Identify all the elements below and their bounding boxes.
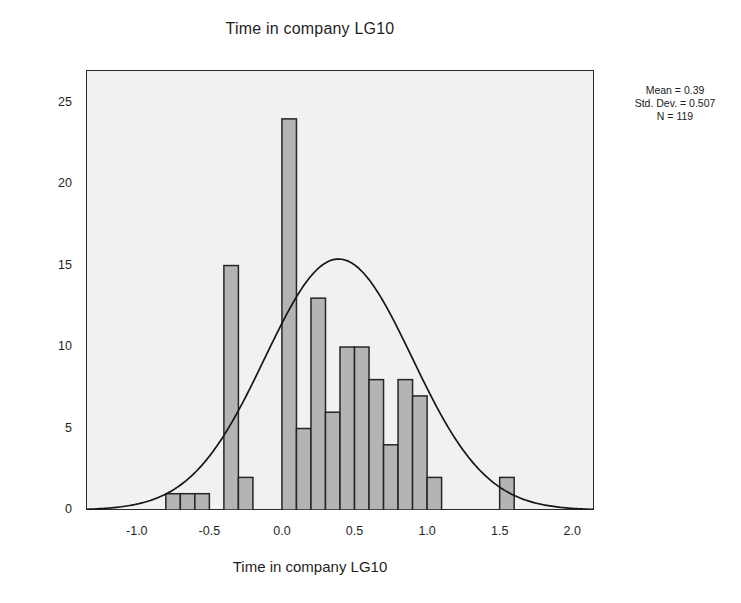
histogram-bar xyxy=(340,347,355,510)
histogram-chart: Time in company LG10 Mean = 0.39 Std. De… xyxy=(0,0,741,603)
x-tick-label: 1.5 xyxy=(477,524,523,538)
histogram-bar xyxy=(413,396,428,510)
histogram-bar xyxy=(384,445,399,510)
histogram-bar xyxy=(238,477,253,510)
y-tick-label: 5 xyxy=(38,421,72,435)
histogram-bar xyxy=(195,494,210,510)
stat-std-dev: Std. Dev. = 0.507 xyxy=(612,97,738,110)
histogram-bar xyxy=(224,266,239,510)
histogram-bar xyxy=(282,119,297,510)
bars-group xyxy=(166,119,514,510)
plot-area xyxy=(86,70,594,510)
y-tick-label: 25 xyxy=(38,95,72,109)
stat-n: N = 119 xyxy=(612,110,738,123)
histogram-bar xyxy=(180,494,195,510)
x-tick-label: 0.0 xyxy=(259,524,305,538)
stat-mean: Mean = 0.39 xyxy=(612,84,738,97)
histogram-bar xyxy=(398,380,413,510)
y-tick-label: 10 xyxy=(38,339,72,353)
histogram-bar xyxy=(166,494,181,510)
x-tick-label: -1.0 xyxy=(114,524,160,538)
histogram-bar xyxy=(355,347,370,510)
x-axis-title: Time in company LG10 xyxy=(0,558,620,575)
x-tick-label: -0.5 xyxy=(186,524,232,538)
histogram-bar xyxy=(325,412,340,510)
x-tick-label: 2.0 xyxy=(549,524,595,538)
x-tick-label: 0.5 xyxy=(332,524,378,538)
histogram-bar xyxy=(296,429,311,510)
histogram-bar xyxy=(311,298,326,510)
plot-canvas xyxy=(86,70,594,510)
y-tick-label: 0 xyxy=(38,502,72,516)
y-tick-label: 20 xyxy=(38,176,72,190)
histogram-bar xyxy=(427,477,442,510)
chart-title: Time in company LG10 xyxy=(0,20,620,38)
statistics-box: Mean = 0.39 Std. Dev. = 0.507 N = 119 xyxy=(612,84,738,123)
x-tick-label: 1.0 xyxy=(404,524,450,538)
histogram-bar xyxy=(369,380,384,510)
y-tick-label: 15 xyxy=(38,258,72,272)
